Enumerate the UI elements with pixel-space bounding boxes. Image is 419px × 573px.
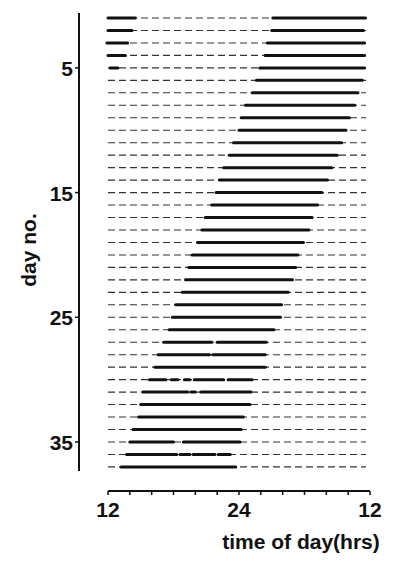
y-axis: 5152535 (50, 13, 79, 471)
x-tick-label: 12 (96, 498, 119, 521)
actogram-chart: 5152535 122412 day no. time of day(hrs) (0, 0, 419, 573)
chart-canvas: 5152535 122412 day no. time of day(hrs) (0, 0, 419, 573)
y-tick-label: 5 (61, 57, 73, 80)
y-axis-label: day no. (17, 213, 40, 287)
x-tick-label: 24 (227, 498, 251, 521)
x-tick-label: 12 (358, 498, 381, 521)
y-tick-label: 35 (50, 431, 74, 454)
y-tick-label: 15 (50, 182, 74, 205)
x-axis-label: time of day(hrs) (222, 530, 380, 553)
x-axis: 122412 (96, 491, 381, 521)
y-tick-label: 25 (50, 306, 74, 329)
day-rows (107, 18, 366, 467)
